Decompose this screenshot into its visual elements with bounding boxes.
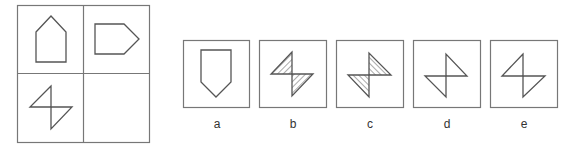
- option-b[interactable]: [260, 41, 327, 108]
- option-e-label: e: [509, 117, 539, 131]
- option-c[interactable]: [337, 41, 404, 108]
- option-e[interactable]: [491, 41, 558, 108]
- option-d-label: d: [432, 117, 462, 131]
- option-b-label: b: [278, 117, 308, 131]
- option-a[interactable]: [184, 41, 250, 108]
- option-c-label: c: [355, 117, 385, 131]
- question-grid: [18, 6, 150, 143]
- grid-cell-bottom-left-triangles: [30, 86, 72, 129]
- option-a-label: a: [202, 117, 232, 131]
- grid-cell-top-right-pentagon-right: [95, 24, 139, 54]
- option-d[interactable]: [414, 41, 481, 108]
- grid-cell-top-left-pentagon-up: [36, 16, 66, 62]
